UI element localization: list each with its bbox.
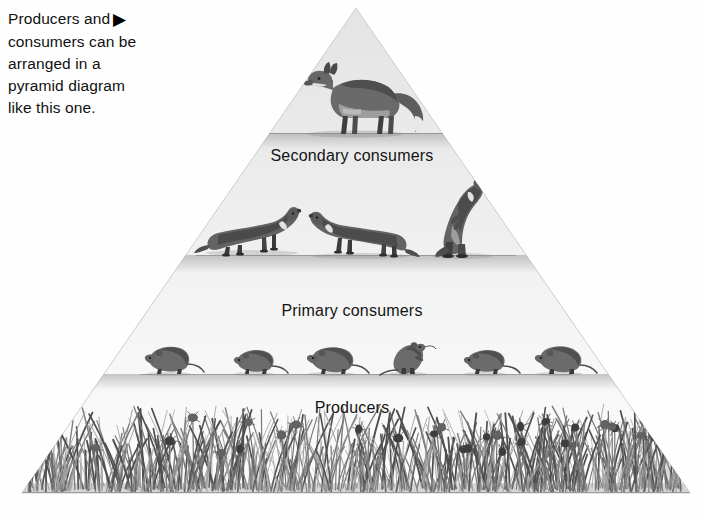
flower-bract xyxy=(653,422,656,425)
tier-label-secondary-consumers: Secondary consumers xyxy=(0,147,704,165)
grass-blade xyxy=(23,419,38,488)
clover-flower-head xyxy=(517,422,524,432)
flower-bract xyxy=(521,436,522,439)
flower-bract xyxy=(643,418,647,419)
tier-label-producers: Producers xyxy=(0,399,704,417)
clover-flower-head xyxy=(492,431,502,441)
grass-blade xyxy=(16,424,30,491)
flower-bract xyxy=(520,418,521,423)
clover-flower-head xyxy=(561,439,569,447)
ground-litter xyxy=(22,483,690,493)
clover-flower-head xyxy=(38,432,48,440)
pyramid-diagram-page: Producers and▶ consumers can be arranged… xyxy=(0,0,704,519)
pyramid-svg xyxy=(0,0,704,519)
flower-bract xyxy=(48,419,49,422)
clover-flower-head xyxy=(245,418,253,426)
clover-flower-head xyxy=(483,433,490,440)
flower-bract xyxy=(463,453,464,457)
clover-flower-head xyxy=(236,445,243,454)
flower-bract xyxy=(220,456,221,460)
grass-leaf xyxy=(675,435,694,485)
clover-flower-head xyxy=(393,434,403,443)
clover-flower-head xyxy=(464,444,473,453)
flower-bract xyxy=(649,423,650,426)
energy-pyramid: Secondary consumers Primary consumers Pr… xyxy=(0,0,704,519)
flower-bract xyxy=(649,423,650,428)
flower-bract xyxy=(457,450,460,451)
clover-flower-head xyxy=(571,423,579,431)
flower-bract xyxy=(655,431,656,434)
flower-bract xyxy=(46,431,49,434)
flower-bract xyxy=(50,417,55,419)
flower-bract xyxy=(46,438,49,440)
flower-bract xyxy=(467,452,468,456)
flower-bract xyxy=(49,418,51,421)
flower-bract xyxy=(657,438,660,439)
flower-bract xyxy=(362,430,366,431)
grass-blade xyxy=(24,425,30,488)
tier-label-primary-consumers: Primary consumers xyxy=(0,302,704,320)
grass-blade xyxy=(7,428,31,493)
flower-bract xyxy=(435,437,436,442)
clover-flower-head xyxy=(518,437,526,446)
flower-bract xyxy=(44,439,45,442)
flower-bract xyxy=(44,418,46,421)
flower-bract xyxy=(41,417,44,419)
clover-flower-head xyxy=(291,420,301,428)
clover-flower-head xyxy=(543,418,550,424)
clover-flower-head xyxy=(645,416,652,423)
flower-bract xyxy=(41,428,42,433)
grass-blade xyxy=(373,442,374,489)
ground-shadow-tier-2 xyxy=(0,374,704,390)
